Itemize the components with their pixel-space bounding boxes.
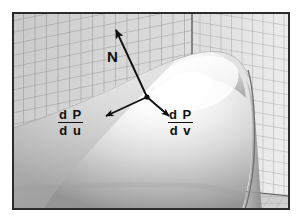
tangent-v-numerator: d P [168, 108, 193, 123]
scene-contents [13, 13, 289, 209]
tangent-v-label: d P d v [168, 108, 193, 137]
surface-normal-diagram: N d P d u d P d v [0, 0, 302, 222]
tangent-u-numerator: d P [58, 108, 83, 123]
normal-vector-label: N [107, 48, 118, 65]
tangent-u-label: d P d u [58, 108, 83, 137]
scene-canvas [0, 0, 302, 222]
tangent-u-denominator: d u [58, 123, 83, 137]
tangent-v-denominator: d v [168, 123, 193, 137]
surface-point-origin [144, 94, 149, 99]
